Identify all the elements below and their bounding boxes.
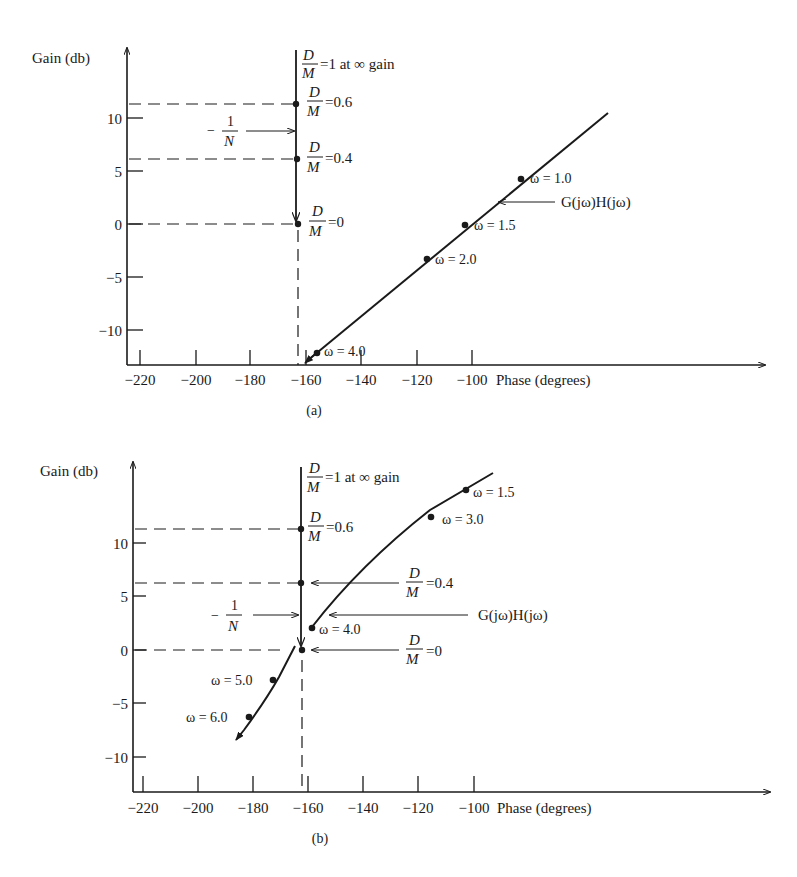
y-axis-label: Gain (db) (32, 50, 90, 67)
dm-label-06: D M =0.6 (306, 84, 353, 119)
svg-text:ω = 1.5: ω = 1.5 (474, 218, 516, 233)
svg-text:−: − (211, 608, 219, 623)
gh-label: G(jω)H(jω) (499, 194, 631, 211)
svg-text:−: − (207, 123, 215, 138)
dm-label-04: D M =0.4 (312, 565, 454, 600)
svg-text:10: 10 (107, 111, 122, 127)
svg-text:−160: −160 (293, 800, 324, 816)
svg-text:ω = 2.0: ω = 2.0 (435, 252, 477, 267)
svg-text:M: M (405, 584, 420, 600)
y-tick-labels: 10 5 0 −5 −10 (99, 111, 122, 339)
svg-text:D: D (408, 632, 420, 648)
svg-text:M: M (307, 528, 322, 544)
chart-a: Gain (db) 10 5 0 −5 −10 −220 (32, 47, 765, 419)
svg-text:−140: −140 (348, 800, 379, 816)
svg-text:−180: −180 (235, 372, 266, 388)
x-ticks (143, 776, 474, 792)
svg-text:M: M (306, 159, 321, 175)
svg-text:M: M (301, 65, 316, 81)
svg-text:5: 5 (115, 164, 123, 180)
dm-label-top: D M =1 at ∞ gain (301, 47, 395, 81)
y-tick-labels: 10 5 0 −5 −10 (105, 536, 128, 766)
svg-text:=0.4: =0.4 (325, 150, 353, 166)
svg-text:ω = 6.0: ω = 6.0 (186, 710, 228, 725)
svg-text:G(jω)H(jω): G(jω)H(jω) (561, 194, 631, 211)
svg-text:−10: −10 (105, 750, 128, 766)
svg-text:M: M (308, 223, 323, 239)
svg-text:D: D (408, 565, 420, 581)
svg-text:−140: −140 (346, 372, 377, 388)
x-tick-labels: −220 −200 −180 −160 −140 −120 −100 (128, 800, 490, 816)
svg-text:−220: −220 (128, 800, 159, 816)
svg-text:1: 1 (227, 114, 234, 129)
svg-text:ω = 3.0: ω = 3.0 (442, 512, 484, 527)
svg-text:=1 at ∞ gain: =1 at ∞ gain (325, 469, 400, 485)
svg-text:G(jω)H(jω): G(jω)H(jω) (478, 607, 548, 624)
svg-text:M: M (306, 479, 321, 495)
dm-label-0: D M =0 (308, 203, 344, 239)
svg-text:ω = 1.5: ω = 1.5 (473, 485, 515, 500)
gh-curve-upper (312, 473, 493, 627)
dm-label-0: D M =0 (312, 632, 442, 667)
figure: Gain (db) 10 5 0 −5 −10 −220 (0, 0, 797, 877)
svg-text:D: D (308, 460, 320, 476)
svg-text:−5: −5 (106, 270, 122, 286)
locus-points (293, 101, 301, 227)
svg-text:−100: −100 (459, 800, 490, 816)
svg-text:=0.6: =0.6 (326, 519, 354, 535)
svg-text:=1 at ∞ gain: =1 at ∞ gain (320, 56, 395, 72)
svg-text:M: M (306, 103, 321, 119)
omega-labels: ω = 1.0 ω = 1.5 ω = 2.0 ω = 4.0 (324, 171, 572, 359)
svg-text:=0: =0 (328, 214, 344, 230)
svg-text:−160: −160 (291, 372, 322, 388)
caption-a: (a) (306, 403, 322, 419)
y-axis-label: Gain (db) (40, 463, 98, 480)
svg-text:ω = 1.0: ω = 1.0 (530, 171, 572, 186)
svg-text:N: N (227, 618, 239, 634)
dashed-guides (135, 529, 302, 792)
svg-text:ω = 4.0: ω = 4.0 (319, 622, 361, 637)
x-axis-label: Phase (degrees) (497, 800, 592, 817)
svg-text:=0.6: =0.6 (325, 94, 353, 110)
gh-curve-lower (236, 646, 295, 740)
svg-text:10: 10 (113, 536, 128, 552)
svg-text:D: D (308, 139, 320, 155)
gh-points (246, 487, 470, 721)
svg-text:0: 0 (115, 217, 123, 233)
svg-text:−200: −200 (181, 372, 212, 388)
dm-label-04: D M =0.4 (306, 139, 353, 175)
svg-text:M: M (405, 651, 420, 667)
svg-text:D: D (309, 509, 321, 525)
svg-text:−120: −120 (402, 372, 433, 388)
svg-text:−5: −5 (112, 696, 128, 712)
svg-text:−200: −200 (183, 800, 214, 816)
neg-inv-n-label: − 1 N (211, 598, 298, 634)
svg-text:−120: −120 (403, 800, 434, 816)
svg-text:0: 0 (121, 643, 129, 659)
dashed-guides (129, 104, 298, 365)
dm-label-top: D M =1 at ∞ gain (306, 460, 400, 495)
gh-label: G(jω)H(jω) (330, 607, 548, 624)
svg-text:ω = 5.0: ω = 5.0 (211, 673, 253, 688)
svg-text:=0.4: =0.4 (426, 575, 454, 591)
dm-label-06: D M =0.6 (307, 509, 354, 544)
caption-b: (b) (312, 831, 329, 847)
svg-text:−10: −10 (99, 323, 122, 339)
x-axis-label: Phase (degrees) (496, 372, 591, 389)
svg-text:D: D (302, 47, 314, 63)
svg-text:−180: −180 (238, 800, 269, 816)
svg-text:=0: =0 (426, 643, 442, 659)
svg-text:N: N (223, 133, 235, 149)
svg-text:D: D (311, 203, 323, 219)
svg-text:−220: −220 (125, 372, 156, 388)
svg-text:5: 5 (121, 589, 129, 605)
x-tick-labels: −220 −200 −180 −160 −140 −120 −100 (125, 372, 488, 388)
svg-text:D: D (308, 84, 320, 100)
svg-text:1: 1 (231, 598, 238, 613)
chart-b: Gain (db) 10 5 0 −5 −10 −220 −200 (40, 460, 770, 847)
svg-text:ω = 4.0: ω = 4.0 (324, 344, 366, 359)
neg-inv-n-label: − 1 N (207, 114, 294, 149)
svg-text:−100: −100 (457, 372, 488, 388)
